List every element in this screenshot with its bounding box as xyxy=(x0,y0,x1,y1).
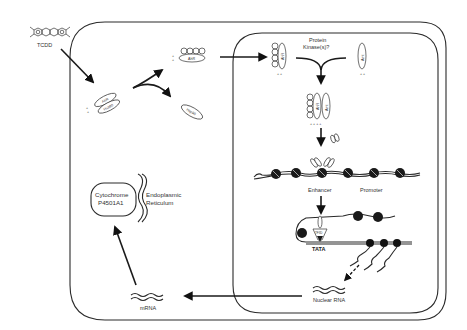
endoplasmic-reticulum-icon xyxy=(138,174,147,222)
svg-text:AhR: AhR xyxy=(316,103,320,110)
rna-polymerase xyxy=(366,239,374,247)
arnt: Arnt + + xyxy=(358,43,366,76)
svg-text:+: + xyxy=(172,58,174,62)
nuclear-ahr: AhR + + xyxy=(272,43,286,76)
arrow-to-free-hsp90 xyxy=(133,84,170,96)
svg-text:+: + xyxy=(87,110,89,114)
enhancer-bound-dimers xyxy=(309,157,335,169)
heterodimer-small-icon xyxy=(330,133,340,143)
svg-text:+ +: + + xyxy=(360,72,365,76)
nuclear-rna-label: Nuclear RNA xyxy=(313,297,345,303)
arrow-tcdd-to-complex xyxy=(61,49,93,82)
rna-polymerase xyxy=(393,239,401,247)
nucleosome xyxy=(373,212,383,222)
ligand-bound-ahr: AhR + + xyxy=(172,48,205,62)
nucleosome xyxy=(353,211,363,221)
enhancer-label: Enhancer xyxy=(308,187,332,193)
svg-text:TFIID: TFIID xyxy=(315,231,323,235)
tcdd-label: TCDD xyxy=(37,42,52,48)
cyp-label-1: Cytochrome xyxy=(95,191,129,198)
mrna-icon xyxy=(131,294,163,301)
nucleosome xyxy=(297,228,307,238)
svg-text:AhR: AhR xyxy=(281,53,285,60)
free-hsp90: Hsp90 xyxy=(179,102,204,122)
ahr-pathway-diagram: TCDD AhR Hsp90 + + AhR + + Hsp90 AhR + xyxy=(0,0,467,330)
protein-kinase-label-1: Protein xyxy=(309,37,326,43)
cyp-label-2: P4501A1 xyxy=(98,199,124,206)
er-label-1: Endoplasmic xyxy=(146,191,181,198)
promoter-label: Promoter xyxy=(360,187,383,193)
tata-label: TATA xyxy=(312,246,325,252)
svg-text:+ +: + + xyxy=(277,72,282,76)
tfiid-complex: TFIID xyxy=(313,216,327,242)
cell-membrane xyxy=(70,22,446,320)
arrow-to-ligand-ahr xyxy=(133,70,162,88)
nuclear-rna-icon xyxy=(313,287,345,294)
svg-text:AhR: AhR xyxy=(188,57,195,61)
protein-kinase-label-2: Kinase(s)? xyxy=(303,44,329,50)
svg-text:Arnt: Arnt xyxy=(325,104,329,111)
mrna-label: mRNA xyxy=(140,305,157,311)
tcdd-molecule-icon xyxy=(30,27,70,37)
svg-text:Arnt: Arnt xyxy=(361,54,365,61)
arrow-to-nuclear-rna xyxy=(345,265,359,280)
svg-text:+ + + +: + + + + xyxy=(310,122,321,126)
nascent-transcripts xyxy=(350,247,397,272)
ahr-arnt-heterodimer: AhR Arnt + + + + xyxy=(307,93,330,126)
rna-polymerase xyxy=(380,239,388,247)
ahr-hsp90-complex: AhR Hsp90 xyxy=(93,91,121,116)
arrow-mrna-to-cyp1a1 xyxy=(115,227,136,285)
er-label-2: Reticulum xyxy=(146,199,174,206)
